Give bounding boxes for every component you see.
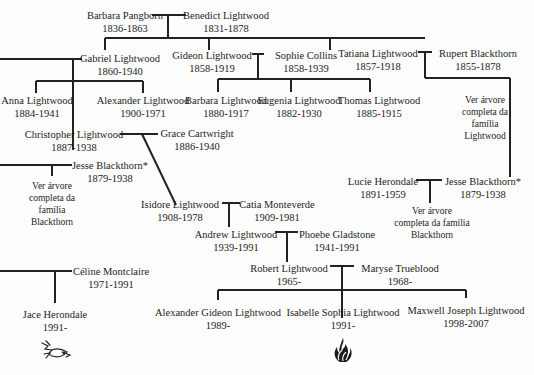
person-maryse-trueblood: Maryse Trueblood 1968- xyxy=(361,262,438,288)
family-tree-diagram: Barbara Pangborn 1836-1863 Benedict Ligh… xyxy=(0,0,534,375)
note-line: Lightwood xyxy=(462,130,508,142)
person-sophie-collins: Sophie Collins 1858-1939 xyxy=(275,49,337,75)
person-catia-monteverde: Catia Monteverde 1909-1981 xyxy=(239,198,315,224)
person-lucie-herondale: Lucie Herondale 1891-1959 xyxy=(348,175,418,201)
person-years: 1882-1930 xyxy=(257,107,340,120)
bird-icon xyxy=(40,340,72,362)
person-name: Barbara Lightwood xyxy=(185,94,267,107)
note-line: família xyxy=(462,118,508,130)
person-isabelle-sophia-lightwood: Isabelle Sophia Lightwood 1991- xyxy=(286,306,399,332)
person-gideon-lightwood: Gideon Lightwood 1858-1919 xyxy=(172,49,252,75)
person-name: Phoebe Gladstone xyxy=(299,228,375,241)
person-years: 1836-1863 xyxy=(87,22,163,35)
person-alexander-gideon-lightwood: Alexander Gideon Lightwood 1989- xyxy=(155,306,281,332)
person-name: Jace Herondale xyxy=(23,308,87,321)
person-years: 1855-1878 xyxy=(439,60,517,73)
flame-icon xyxy=(333,338,353,364)
person-years: 1908-1978 xyxy=(141,211,219,224)
person-name: Gideon Lightwood xyxy=(172,49,252,62)
person-name: Jesse Blackthorn* xyxy=(72,159,148,172)
person-tatiana-lightwood: Tatiana Lightwood 1857-1918 xyxy=(338,47,417,73)
person-name: Isabelle Sophia Lightwood xyxy=(286,306,399,319)
person-years: 1989- xyxy=(155,319,281,332)
person-christopher-lightwood: Christopher Lightwood 1887-1938 xyxy=(25,128,123,154)
note-line: Ver árvore xyxy=(394,205,469,217)
person-gabriel-lightwood: Gabriel Lightwood 1860-1940 xyxy=(80,52,160,78)
person-barbara-pangborn: Barbara Pangborn 1836-1863 xyxy=(87,9,163,35)
person-name: Gabriel Lightwood xyxy=(80,52,160,65)
person-name: Anna Lightwood xyxy=(1,94,72,107)
person-name: Alexander Lightwood xyxy=(97,94,189,107)
note-line: completa da xyxy=(29,192,75,204)
person-grace-cartwright: Grace Cartwright 1886-1940 xyxy=(160,127,233,153)
person-years: 1971-1991 xyxy=(73,278,149,291)
person-name: Jesse Blackthorn* xyxy=(445,175,521,188)
person-alexander-lightwood: Alexander Lightwood 1900-1971 xyxy=(97,94,189,120)
person-jesse-blackthorn-left: Jesse Blackthorn* 1879-1938 xyxy=(72,159,148,185)
person-name: Maryse Trueblood xyxy=(361,262,438,275)
person-name: Catia Monteverde xyxy=(239,198,315,211)
note-lightwood-tree: Ver árvore completa da família Lightwood xyxy=(462,94,508,142)
person-name: Eugenia Lightwood xyxy=(257,94,340,107)
note-line: completa da xyxy=(462,106,508,118)
note-line: Blackthorn xyxy=(394,229,469,241)
person-years: 1860-1940 xyxy=(80,65,160,78)
person-jesse-blackthorn-right: Jesse Blackthorn* 1879-1938 xyxy=(445,175,521,201)
person-barbara-lightwood: Barbara Lightwood 1880-1917 xyxy=(185,94,267,120)
note-line: Blackthorn xyxy=(29,216,75,228)
person-years: 1939-1991 xyxy=(195,241,278,254)
person-years: 1858-1939 xyxy=(275,62,337,75)
person-years: 1880-1917 xyxy=(185,107,267,120)
person-years: 1886-1940 xyxy=(160,140,233,153)
person-name: Benedict Lightwood xyxy=(183,9,269,22)
person-years: 1968- xyxy=(361,275,438,288)
person-name: Alexander Gideon Lightwood xyxy=(155,306,281,319)
person-years: 1909-1981 xyxy=(239,211,315,224)
person-name: Maxwell Joseph Lightwood xyxy=(407,304,524,317)
person-name: Céline Montclaire xyxy=(73,265,149,278)
person-years: 1998-2007 xyxy=(407,317,524,330)
person-name: Thomas Lightwood xyxy=(338,94,421,107)
person-name: Andrew Lightwood xyxy=(195,228,278,241)
person-years: 1858-1919 xyxy=(172,62,252,75)
person-name: Christopher Lightwood xyxy=(25,128,123,141)
person-jace-herondale: Jace Herondale 1991- xyxy=(23,308,87,334)
person-name: Isidore Lightwood xyxy=(141,198,219,211)
note-line: Ver árvore xyxy=(29,180,75,192)
person-years: 1879-1938 xyxy=(72,172,148,185)
person-name: Sophie Collins xyxy=(275,49,337,62)
person-years: 1887-1938 xyxy=(25,141,123,154)
person-years: 1891-1959 xyxy=(348,188,418,201)
person-thomas-lightwood: Thomas Lightwood 1885-1915 xyxy=(338,94,421,120)
person-years: 1879-1938 xyxy=(445,188,521,201)
person-name: Barbara Pangborn xyxy=(87,9,163,22)
note-blackthorn-tree-left: Ver árvore completa da família Blackthor… xyxy=(29,180,75,228)
note-blackthorn-tree-right: Ver árvore completa da família Blackthor… xyxy=(394,205,469,241)
person-years: 1900-1971 xyxy=(97,107,189,120)
person-years: 1885-1915 xyxy=(338,107,421,120)
person-name: Grace Cartwright xyxy=(160,127,233,140)
person-years: 1884-1941 xyxy=(1,107,72,120)
person-anna-lightwood: Anna Lightwood 1884-1941 xyxy=(1,94,72,120)
note-line: família xyxy=(29,204,75,216)
person-rupert-blackthorn: Rupert Blackthorn 1855-1878 xyxy=(439,47,517,73)
person-years: 1941-1991 xyxy=(299,241,375,254)
person-years: 1831-1878 xyxy=(183,22,269,35)
person-years: 1965- xyxy=(250,275,327,288)
person-isidore-lightwood: Isidore Lightwood 1908-1978 xyxy=(141,198,219,224)
person-andrew-lightwood: Andrew Lightwood 1939-1991 xyxy=(195,228,278,254)
person-robert-lightwood: Robert Lightwood 1965- xyxy=(250,262,327,288)
person-name: Robert Lightwood xyxy=(250,262,327,275)
person-eugenia-lightwood: Eugenia Lightwood 1882-1930 xyxy=(257,94,340,120)
person-benedict-lightwood: Benedict Lightwood 1831-1878 xyxy=(183,9,269,35)
person-name: Tatiana Lightwood xyxy=(338,47,417,60)
person-name: Lucie Herondale xyxy=(348,175,418,188)
note-line: Ver árvore xyxy=(462,94,508,106)
person-years: 1857-1918 xyxy=(338,60,417,73)
person-maxwell-joseph-lightwood: Maxwell Joseph Lightwood 1998-2007 xyxy=(407,304,524,330)
person-phoebe-gladstone: Phoebe Gladstone 1941-1991 xyxy=(299,228,375,254)
person-celine-montclaire: Céline Montclaire 1971-1991 xyxy=(73,265,149,291)
person-years: 1991- xyxy=(23,321,87,334)
person-name: Rupert Blackthorn xyxy=(439,47,517,60)
person-years: 1991- xyxy=(286,319,399,332)
